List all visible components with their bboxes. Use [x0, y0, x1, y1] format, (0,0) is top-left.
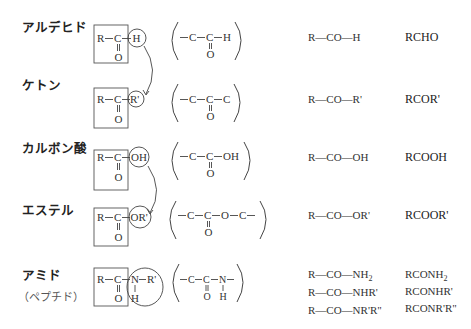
- svg-text:O: O: [207, 48, 215, 60]
- svg-text:C: C: [114, 151, 121, 163]
- svg-text:OH: OH: [131, 151, 147, 163]
- svg-text:C: C: [114, 93, 121, 105]
- svg-text:O: O: [207, 110, 215, 122]
- row-ester: エステル R C O OR' C C O O C: [22, 201, 449, 246]
- row-carboxylic-acid: カルボン酸 R C O OH C C O OH R—CO—OH: [22, 141, 447, 190]
- svg-text:C: C: [189, 150, 196, 162]
- svg-text:C: C: [206, 93, 213, 105]
- svg-text:H: H: [220, 291, 227, 302]
- svg-text:R: R: [97, 273, 105, 285]
- label-ester: エステル: [22, 203, 74, 218]
- partial-structure-carboxylic-acid: C C O OH: [172, 142, 250, 180]
- svg-text:R: R: [97, 151, 105, 163]
- partial-structure-ketone: C C O C: [172, 84, 240, 122]
- svg-text:RCONH2: RCONH2: [405, 268, 448, 283]
- svg-text:H: H: [223, 31, 231, 43]
- abbreviation-carboxylic-acid: RCOOH: [405, 150, 447, 164]
- svg-text:R—CO—NH2: R—CO—NH2: [308, 268, 373, 283]
- arrow-aldehyde-to-ketone: [144, 46, 153, 94]
- svg-text:C: C: [223, 93, 230, 105]
- svg-text:OH: OH: [223, 150, 239, 162]
- svg-text:C: C: [114, 273, 121, 285]
- label-peptide: （ペプチド）: [18, 291, 84, 304]
- boxed-structure-ester: R C O OR': [94, 206, 151, 246]
- abbreviation-ester: RCOOR': [405, 208, 449, 222]
- svg-text:C: C: [189, 93, 196, 105]
- svg-text:OR': OR': [131, 211, 148, 223]
- partial-structure-ester: C C O O C: [170, 201, 266, 239]
- svg-text:RCONHR': RCONHR': [405, 285, 453, 297]
- svg-text:R—CO—NHR': R—CO—NHR': [308, 286, 378, 298]
- svg-text:C: C: [203, 274, 210, 285]
- partial-structure-amide: C C O N H: [173, 264, 243, 302]
- label-aldehyde: アルデヒド: [22, 20, 87, 35]
- svg-text:C: C: [206, 150, 213, 162]
- abbreviation-aldehyde: RCHO: [405, 30, 439, 44]
- svg-text:C: C: [187, 209, 194, 221]
- svg-text:O: O: [115, 292, 123, 304]
- oxygen: O: [115, 51, 123, 63]
- label-carboxylic-acid: カルボン酸: [22, 141, 87, 156]
- svg-text:C: C: [114, 211, 121, 223]
- row-amide: アミド （ペプチド） R C O N R' H C C O: [18, 264, 457, 316]
- svg-text:O: O: [115, 171, 123, 183]
- boxed-structure-ketone: R C O R': [94, 88, 144, 128]
- abbreviations-amide: RCONH2 RCONHR' RCONR'R": [405, 268, 457, 314]
- carbonyl-box: [94, 25, 128, 63]
- boxed-structure-carboxylic-acid: R C O OH: [94, 147, 149, 190]
- functional-group-diagram: アルデヒド R C O H C C O H R—CO—H R: [0, 0, 471, 329]
- carbon: C: [114, 32, 121, 44]
- circled-group: H: [133, 32, 141, 44]
- svg-text:C: C: [204, 209, 211, 221]
- highlight-circle: [127, 268, 163, 306]
- svg-text:R—CO—NR'R": R—CO—NR'R": [308, 304, 382, 316]
- svg-text:C: C: [188, 274, 195, 285]
- svg-text:O: O: [207, 167, 215, 179]
- svg-text:R: R: [97, 93, 105, 105]
- arrow-acid-to-ester: [148, 166, 157, 213]
- svg-text:O: O: [204, 291, 211, 302]
- svg-text:R': R': [147, 273, 156, 285]
- row-ketone: ケトン R C O R' C C O C R—CO—R' R: [22, 78, 440, 128]
- label-ketone: ケトン: [22, 78, 61, 93]
- condensed-formula-carboxylic-acid: R—CO—OH: [308, 151, 369, 163]
- boxed-structure-amide: R C O N R' H: [94, 268, 163, 306]
- row-aldehyde: アルデヒド R C O H C C O H R—CO—H R: [22, 20, 439, 63]
- svg-text:R': R': [130, 93, 139, 105]
- svg-text:C: C: [206, 31, 213, 43]
- r-group: R: [97, 32, 105, 44]
- svg-text:O: O: [221, 209, 229, 221]
- svg-text:N: N: [219, 274, 226, 285]
- svg-text:O: O: [115, 113, 123, 125]
- label-amide: アミド: [22, 268, 61, 283]
- condensed-formula-aldehyde: R—CO—H: [308, 31, 361, 43]
- svg-text:O: O: [205, 226, 213, 238]
- svg-text:N: N: [131, 273, 139, 285]
- boxed-structure-aldehyde: R C O H: [94, 25, 146, 63]
- abbreviation-ketone: RCOR': [405, 92, 440, 106]
- partial-structure-aldehyde: C C O H: [172, 22, 241, 60]
- condensed-formulas-amide: R—CO—NH2 R—CO—NHR' R—CO—NR'R": [308, 268, 382, 316]
- svg-text:R: R: [97, 211, 105, 223]
- condensed-formula-ketone: R—CO—R': [308, 93, 362, 105]
- svg-text:H: H: [131, 292, 139, 304]
- svg-text:C: C: [189, 31, 196, 43]
- svg-text:RCONR'R": RCONR'R": [405, 302, 457, 314]
- svg-text:C: C: [239, 209, 246, 221]
- svg-text:O: O: [115, 231, 123, 243]
- condensed-formula-ester: R—CO—OR': [308, 209, 370, 221]
